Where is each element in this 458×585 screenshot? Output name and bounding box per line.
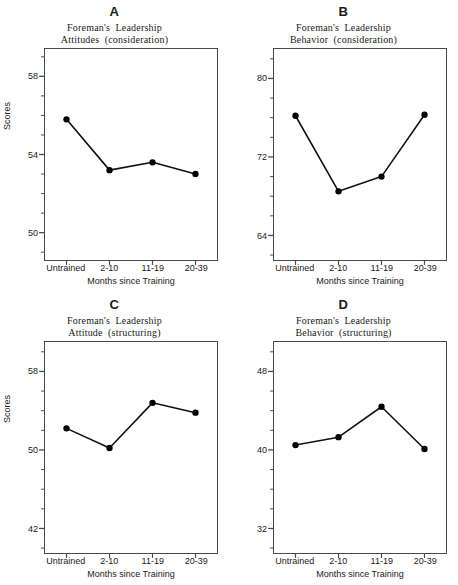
panel-b-data-line xyxy=(296,115,425,192)
panel-c-data-point xyxy=(63,425,69,431)
panel-c-data-point xyxy=(149,400,155,406)
panel-d: D Foreman's Leadership Behavior (structu… xyxy=(229,293,458,585)
panel-d-data-line xyxy=(296,407,425,449)
panel-a-data-point xyxy=(63,116,69,122)
panel-a-y-axis-title: Scores xyxy=(2,102,12,130)
panel-c-xtick-labels: Untrained2-1011-1920-39 xyxy=(44,556,218,570)
panel-d-letter: D xyxy=(229,297,458,312)
panel-a-data-line xyxy=(67,119,196,174)
panel-b-data-point xyxy=(421,112,427,118)
panel-d-title-line2: Behavior (structuring) xyxy=(229,327,458,339)
panel-c-ytick-labels: 425058 xyxy=(14,341,38,554)
panel-d-data-point xyxy=(421,446,427,452)
panel-b-data-point xyxy=(378,173,384,179)
panel-c-plot-svg xyxy=(45,342,217,553)
panel-b: B Foreman's Leadership Behavior (conside… xyxy=(229,0,458,292)
panel-a-ytick-label: 50 xyxy=(16,228,38,238)
panel-b-title: Foreman's Leadership Behavior (considera… xyxy=(229,22,458,46)
panel-d-ytick-label: 40 xyxy=(245,445,267,455)
panel-b-xtick-label: Untrained xyxy=(275,263,314,273)
panel-a-x-axis-title: Months since Training xyxy=(44,276,218,286)
panel-d-plot-area xyxy=(273,341,447,554)
panel-b-plot-svg xyxy=(274,49,446,260)
panel-b-x-axis-title: Months since Training xyxy=(273,276,447,286)
panel-d-xtick-labels: Untrained2-1011-1920-39 xyxy=(273,556,447,570)
panel-a-ytick-labels: 505458 xyxy=(14,48,38,261)
panel-c-data-point xyxy=(106,445,112,451)
panel-b-title-line1: Foreman's Leadership xyxy=(229,22,458,34)
panel-a-ytick-label: 58 xyxy=(16,71,38,81)
panel-b-xtick-labels: Untrained2-1011-1920-39 xyxy=(273,263,447,277)
panel-d-data-point xyxy=(292,442,298,448)
panel-c-title-line1: Foreman's Leadership xyxy=(0,315,229,327)
panel-c-xtick-label: Untrained xyxy=(46,556,85,566)
panel-a-xtick-label: 20-39 xyxy=(185,263,208,273)
panel-b-ytick-label: 80 xyxy=(245,73,267,83)
panel-d-xtick-label: 11-19 xyxy=(371,556,393,566)
panel-c-ytick-label: 50 xyxy=(16,445,38,455)
panel-d-ytick-label: 48 xyxy=(245,366,267,376)
panel-c-title: Foreman's Leadership Attitude (structuri… xyxy=(0,315,229,339)
panel-b-xtick-label: 11-19 xyxy=(371,263,393,273)
panel-b-plot-area xyxy=(273,48,447,261)
figure-four-panel-line-charts: A Foreman's Leadership Attitudes (consid… xyxy=(0,0,458,585)
panel-c-ytick-label: 42 xyxy=(16,524,38,534)
panel-a-data-point xyxy=(106,167,112,173)
panel-d-x-axis-title: Months since Training xyxy=(273,569,447,579)
panel-a-plot-area xyxy=(44,48,218,261)
panel-a: A Foreman's Leadership Attitudes (consid… xyxy=(0,0,229,292)
panel-b-xtick-label: 20-39 xyxy=(414,263,437,273)
panel-a-title: Foreman's Leadership Attitudes (consider… xyxy=(0,22,229,46)
panel-a-letter: A xyxy=(0,4,229,19)
panel-a-xtick-label: 2-10 xyxy=(100,263,118,273)
panel-c-data-line xyxy=(67,403,196,448)
panel-a-xtick-label: Untrained xyxy=(46,263,85,273)
panel-a-plot-svg xyxy=(45,49,217,260)
panel-c-title-line2: Attitude (structuring) xyxy=(0,327,229,339)
panel-a-title-line2: Attitudes (consideration) xyxy=(0,34,229,46)
panel-c-xtick-label: 2-10 xyxy=(100,556,118,566)
panel-a-data-point xyxy=(149,159,155,165)
panel-d-title-line1: Foreman's Leadership xyxy=(229,315,458,327)
panel-d-plot-svg xyxy=(274,342,446,553)
panel-a-title-line1: Foreman's Leadership xyxy=(0,22,229,34)
panel-c: C Foreman's Leadership Attitude (structu… xyxy=(0,293,229,585)
panel-c-x-axis-title: Months since Training xyxy=(44,569,218,579)
panel-c-y-axis-title: Scores xyxy=(2,395,12,423)
panel-d-xtick-label: 2-10 xyxy=(329,556,347,566)
panel-a-xtick-labels: Untrained2-1011-1920-39 xyxy=(44,263,218,277)
panel-b-data-point xyxy=(292,113,298,119)
panel-a-data-point xyxy=(192,171,198,177)
panel-d-title: Foreman's Leadership Behavior (structuri… xyxy=(229,315,458,339)
panel-b-data-point xyxy=(335,188,341,194)
panel-d-ytick-label: 32 xyxy=(245,524,267,534)
panel-d-ytick-labels: 324048 xyxy=(243,341,267,554)
panel-c-letter: C xyxy=(0,297,229,312)
panel-c-xtick-label: 20-39 xyxy=(185,556,208,566)
panel-c-plot-area xyxy=(44,341,218,554)
panel-c-ytick-label: 58 xyxy=(16,366,38,376)
panel-b-ytick-labels: 647280 xyxy=(243,48,267,261)
panel-b-letter: B xyxy=(229,4,458,19)
panel-d-xtick-label: Untrained xyxy=(275,556,314,566)
panel-a-ytick-label: 54 xyxy=(16,150,38,160)
panel-d-data-point xyxy=(335,434,341,440)
panel-c-data-point xyxy=(192,409,198,415)
panel-a-xtick-label: 11-19 xyxy=(142,263,164,273)
panel-d-data-point xyxy=(378,404,384,410)
panel-c-xtick-label: 11-19 xyxy=(142,556,164,566)
panel-b-xtick-label: 2-10 xyxy=(329,263,347,273)
panel-b-title-line2: Behavior (consideration) xyxy=(229,34,458,46)
panel-b-ytick-label: 72 xyxy=(245,152,267,162)
panel-b-ytick-label: 64 xyxy=(245,231,267,241)
panel-d-xtick-label: 20-39 xyxy=(414,556,437,566)
